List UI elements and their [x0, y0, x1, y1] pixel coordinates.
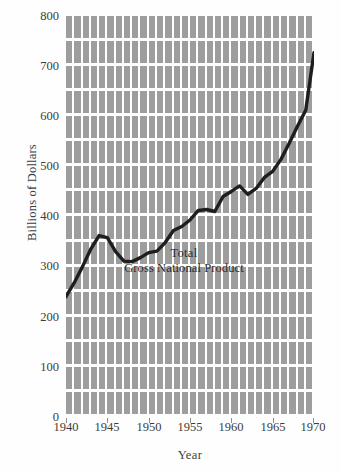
y-axis-tick-700: 700 [19, 59, 59, 74]
y-axis-tick-300: 300 [19, 259, 59, 274]
series-line-gnp [66, 16, 314, 417]
x-axis-tick-1940: 1940 [44, 420, 88, 435]
y-axis-tick-200: 200 [19, 310, 59, 325]
x-axis-tick-1965: 1965 [251, 420, 295, 435]
y-axis-tick-500: 500 [19, 159, 59, 174]
y-axis-tick-100: 100 [19, 360, 59, 375]
y-axis-tick-400: 400 [19, 209, 59, 224]
plot-area [66, 16, 314, 417]
x-axis-tick-1950: 1950 [127, 420, 171, 435]
x-axis-tick-1945: 1945 [85, 420, 129, 435]
x-axis-title: Year [66, 448, 314, 463]
x-axis-tick-1970: 1970 [291, 420, 335, 435]
gnp-line-chart: Billions of Dollars 800 700 600 500 400 … [0, 0, 341, 472]
x-axis-tick-1960: 1960 [209, 420, 253, 435]
y-axis-tick-600: 600 [19, 109, 59, 124]
x-axis-tick-1955: 1955 [168, 420, 212, 435]
y-axis-tick-800: 800 [19, 9, 59, 24]
